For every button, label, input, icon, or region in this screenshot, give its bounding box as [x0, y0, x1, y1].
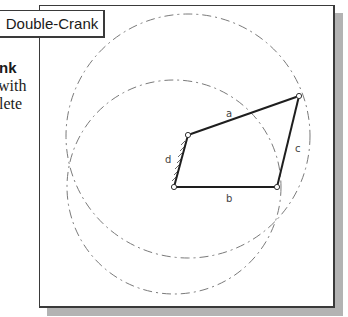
figure-title: Double-Crank [2, 15, 99, 32]
linkage-diagram: a b c d [0, 0, 348, 317]
figure-title-box: Double-Crank [0, 10, 105, 38]
link-c [277, 96, 299, 187]
joint-coupler-end [296, 93, 301, 98]
link-label-b: b [226, 193, 232, 204]
joint-ground-left [171, 184, 176, 189]
link-a [188, 96, 299, 135]
ground-hatch [172, 141, 185, 181]
joint-ground-right [274, 184, 279, 189]
link-label-c: c [295, 143, 301, 154]
link-label-a: a [226, 108, 232, 119]
link-d [174, 135, 188, 187]
joint-crank-top [185, 132, 190, 137]
link-label-d: d [165, 154, 171, 165]
